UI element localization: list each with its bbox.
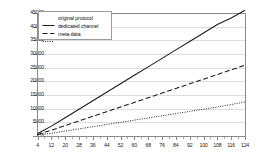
x-tick-mark [134,137,135,140]
gridline-horizontal [38,95,245,96]
x-tick-mark-minor [58,137,59,139]
x-tick-mark [190,137,191,140]
gridline-horizontal [38,109,245,110]
y-tick-label: 5000 [10,119,44,124]
legend-label: original protocol [58,15,93,22]
y-tick-label: 15000 [10,92,44,97]
x-tick-mark [93,137,94,140]
gridline-horizontal [38,81,245,82]
axis-line-bottom [37,136,246,137]
line-chart: 0500010000150002000025000300003500040000… [0,0,259,159]
x-tick-mark [217,137,218,140]
legend-label: dedicated channel [58,23,98,30]
y-tick-label: 20000 [10,78,44,83]
x-tick-mark-minor [141,137,142,139]
legend: original protocoldedicated channelmeta-d… [38,11,112,40]
x-tick-mark-minor [155,137,156,139]
gridline-horizontal [38,122,245,123]
gridline-horizontal [38,54,245,55]
x-tick-mark-minor [72,137,73,139]
x-tick-mark-minor [86,137,87,139]
y-tick-label: 25000 [10,65,44,70]
legend-swatch-dotted-icon [42,31,55,38]
x-tick-mark [162,137,163,140]
x-tick-mark-minor [197,137,198,139]
legend-item: original protocol [42,14,108,22]
x-tick-label: 124 [236,143,254,148]
series-line-dedicated-channel [38,65,246,134]
x-tick-mark [107,137,108,140]
gridline-horizontal [38,68,245,69]
x-tick-mark [204,137,205,140]
legend-label: meta-data [58,31,80,38]
gridline-horizontal [38,40,245,41]
x-tick-mark [65,137,66,140]
x-tick-mark-minor [238,137,239,139]
x-tick-mark [51,137,52,140]
legend-swatch-dashed-icon [42,23,55,30]
legend-item: dedicated channel [42,22,108,30]
x-tick-mark-minor [100,137,101,139]
x-tick-mark [79,137,80,140]
x-tick-mark-minor [169,137,170,139]
x-tick-mark [38,137,39,140]
x-tick-mark [121,137,122,140]
legend-swatch-solid-icon [42,15,55,22]
y-tick-label: 10000 [10,106,44,111]
x-tick-mark-minor [44,137,45,139]
series-line-meta-data [38,102,246,135]
x-tick-mark-minor [224,137,225,139]
x-tick-mark-minor [127,137,128,139]
y-tick-label: 30000 [10,51,44,56]
x-tick-mark-minor [114,137,115,139]
x-tick-mark [148,137,149,140]
x-tick-mark [231,137,232,140]
x-tick-mark-minor [210,137,211,139]
x-tick-mark [176,137,177,140]
legend-item: meta-data [42,30,108,38]
axis-line-right [245,13,246,137]
x-tick-mark-minor [183,137,184,139]
x-tick-mark [245,137,246,140]
